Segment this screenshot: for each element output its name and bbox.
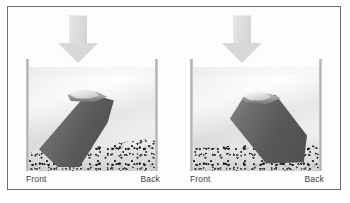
panel-right: Front Back bbox=[176, 7, 336, 189]
tank-wall-right bbox=[319, 59, 322, 171]
label-front: Front bbox=[190, 174, 211, 184]
down-arrow-icon bbox=[222, 15, 262, 63]
figure-root: Front Back Fr bbox=[0, 0, 350, 203]
orientation-labels: Front Back bbox=[190, 174, 324, 184]
tank-interior bbox=[29, 67, 155, 171]
arrow-shaft bbox=[233, 15, 251, 44]
tank-container bbox=[190, 59, 322, 171]
label-back: Back bbox=[305, 174, 325, 184]
tank-container bbox=[26, 59, 158, 171]
arrow-shaft bbox=[69, 15, 87, 44]
tank-wall-right bbox=[155, 59, 158, 171]
orientation-labels: Front Back bbox=[26, 174, 160, 184]
panel-left: Front Back bbox=[12, 7, 172, 189]
label-back: Back bbox=[141, 174, 161, 184]
figure-border-frame: Front Back Fr bbox=[7, 6, 341, 190]
tank-interior bbox=[193, 67, 319, 171]
label-front: Front bbox=[26, 174, 47, 184]
down-arrow-icon bbox=[58, 15, 98, 63]
